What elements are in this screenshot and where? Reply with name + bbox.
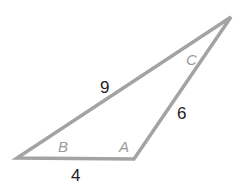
vertex-c-label: C <box>186 51 197 68</box>
side-ac-label: 6 <box>177 104 186 123</box>
side-ab-label: 4 <box>71 166 80 185</box>
vertex-a-label: A <box>118 138 129 155</box>
vertex-b-label: B <box>58 138 68 155</box>
side-bc-label: 9 <box>100 78 109 97</box>
triangle-diagram: 9 6 4 B A C <box>0 0 238 187</box>
